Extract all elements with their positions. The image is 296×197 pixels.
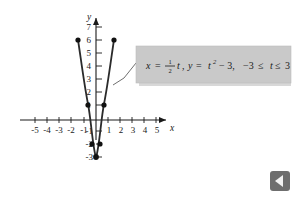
fraction-denominator: 2 [168, 67, 171, 74]
fraction-numerator: 1 [168, 58, 171, 65]
data-point [93, 154, 99, 160]
equation-le-1: ≤ [258, 60, 264, 71]
equation-t-var: t [177, 60, 180, 71]
data-point [97, 141, 102, 146]
equation-minus-three: − 3, [219, 60, 235, 71]
parametric-curve-figure: -5 -4 -3 -2 -1 1 2 3 4 5 7 6 5 4 3 2 1 -… [0, 0, 296, 197]
equation-range-high: 3 [285, 60, 290, 71]
y-tick-label: 6 [87, 35, 92, 45]
x-tick-label: 2 [119, 125, 124, 135]
data-point [85, 102, 90, 107]
equation-equals-1: = [155, 60, 161, 71]
equation-range-var: t [270, 60, 273, 71]
equation-t-var-2: t [208, 60, 211, 71]
x-tick-label: -2 [67, 125, 75, 135]
equation-equals-2: = [196, 60, 202, 71]
x-tick-label: -5 [31, 125, 39, 135]
y-tick-label: 4 [87, 61, 92, 71]
data-point [89, 141, 94, 146]
triangle-left-icon [275, 175, 283, 187]
y-tick-label: -3 [86, 152, 94, 162]
data-point [111, 37, 116, 42]
x-axis-arrow [159, 117, 166, 123]
data-point [75, 37, 80, 42]
x-tick-label: -4 [43, 125, 51, 135]
y-axis-label: y [86, 12, 92, 22]
y-tick-label: 7 [87, 22, 92, 32]
y-axis-arrow [93, 18, 99, 25]
x-axis-label: x [169, 123, 175, 133]
graph-canvas: -5 -4 -3 -2 -1 1 2 3 4 5 7 6 5 4 3 2 1 -… [0, 0, 296, 197]
x-tick-label: 4 [143, 125, 148, 135]
callout-leader-line [113, 63, 136, 85]
y-tick-label: 3 [87, 74, 92, 84]
x-tick-label: 3 [131, 125, 136, 135]
equation-comma: , [182, 60, 185, 71]
equation-le-2: ≤ [275, 60, 281, 71]
equation-y-var: y [187, 60, 193, 71]
back-button[interactable] [270, 171, 290, 191]
x-tick-label: 1 [107, 125, 112, 135]
y-tick-label: 5 [87, 48, 92, 58]
x-tick-label: 5 [155, 125, 160, 135]
x-tick-label: -3 [55, 125, 63, 135]
data-point [101, 102, 106, 107]
callout-shadow [139, 83, 291, 86]
equation-range-low: −3 [243, 60, 254, 71]
equation-x-var: x [145, 60, 151, 71]
